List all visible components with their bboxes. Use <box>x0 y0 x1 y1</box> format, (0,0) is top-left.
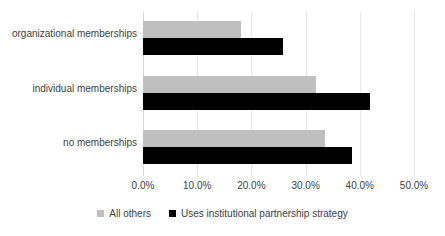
bar-all-others <box>143 130 325 147</box>
legend-swatch-icon <box>97 210 104 217</box>
x-tick-label: 0.0% <box>132 180 155 191</box>
bar-chart: organizational memberships individual me… <box>0 0 445 236</box>
bar-all-others <box>143 76 316 93</box>
category-label: individual memberships <box>33 83 138 94</box>
chart-row-group: no memberships <box>143 121 414 176</box>
chart-legend: All others Uses institutional partnershi… <box>0 208 445 219</box>
category-label: organizational memberships <box>12 28 137 39</box>
legend-item-all-others: All others <box>97 208 151 219</box>
x-tick-label: 30.0% <box>291 180 319 191</box>
legend-label: All others <box>109 208 151 219</box>
bar-all-others <box>143 21 241 38</box>
x-tick-label: 50.0% <box>400 180 428 191</box>
chart-row-group: organizational memberships <box>143 12 414 67</box>
category-label: no memberships <box>63 137 137 148</box>
legend-item-uses-institutional-partnership-strategy: Uses institutional partnership strategy <box>169 208 348 219</box>
plot-area: organizational memberships individual me… <box>143 12 414 176</box>
gridline <box>414 12 415 176</box>
legend-swatch-icon <box>169 210 176 217</box>
bar-uses-institutional-partnership-strategy <box>143 38 283 55</box>
x-tick-label: 40.0% <box>346 180 374 191</box>
chart-row-group: individual memberships <box>143 67 414 122</box>
x-axis-tick-labels: 0.0%10.0%20.0%30.0%40.0%50.0% <box>143 180 414 194</box>
bar-uses-institutional-partnership-strategy <box>143 93 370 110</box>
bar-uses-institutional-partnership-strategy <box>143 147 352 164</box>
x-tick-label: 20.0% <box>237 180 265 191</box>
legend-label: Uses institutional partnership strategy <box>181 208 348 219</box>
x-tick-label: 10.0% <box>183 180 211 191</box>
